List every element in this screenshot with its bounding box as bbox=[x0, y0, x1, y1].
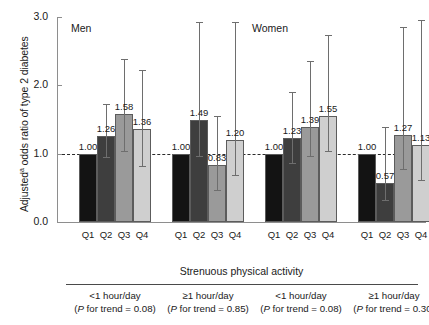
y-axis-label-superscript: a bbox=[18, 168, 25, 172]
group-label-duration: <1 hour/day bbox=[250, 289, 352, 302]
error-bar-cap bbox=[289, 163, 296, 164]
error-bar-cap bbox=[418, 180, 425, 181]
figure-root: Adjusteda odds ratio of type 2 diabetes … bbox=[0, 0, 429, 325]
error-bar-cap bbox=[325, 35, 332, 36]
error-bar-cap bbox=[325, 151, 332, 152]
x-tick-q4: Q4 bbox=[222, 229, 248, 240]
y-axis-tick-label: 1.0 bbox=[18, 147, 48, 159]
panel-title-women: Women bbox=[252, 22, 288, 34]
group-label-duration: <1 hour/day bbox=[64, 289, 166, 302]
x-tick-q4: Q4 bbox=[315, 229, 341, 240]
x-axis-title: Strenuous physical activity bbox=[57, 265, 426, 277]
bar-value-label: 1.20 bbox=[218, 127, 252, 138]
bar-value-label: 1.58 bbox=[107, 101, 141, 112]
y-axis-tick bbox=[57, 85, 62, 86]
group-label: <1 hour/day(P for trend = 0.08) bbox=[64, 289, 166, 315]
bar-value-label: 1.55 bbox=[311, 103, 345, 114]
x-tick-q4: Q4 bbox=[408, 229, 429, 240]
group-label: <1 hour/day(P for trend = 0.08) bbox=[250, 289, 352, 315]
bar-value-label: 1.36 bbox=[125, 116, 159, 127]
error-bar-cap bbox=[196, 22, 203, 23]
y-axis-line bbox=[57, 17, 58, 222]
x-tick-q4: Q4 bbox=[129, 229, 155, 240]
y-axis-top-tick bbox=[57, 17, 62, 18]
y-axis-tick bbox=[57, 222, 62, 223]
y-axis-tick-label: 0.0 bbox=[18, 215, 48, 227]
error-bar bbox=[328, 35, 329, 150]
error-bar-cap bbox=[400, 169, 407, 170]
error-bar-cap bbox=[418, 20, 425, 21]
y-axis-tick-label: 2.0 bbox=[18, 78, 48, 90]
group-label: ≥1 hour/day(P for trend = 0.85) bbox=[157, 289, 259, 315]
error-bar-cap bbox=[121, 151, 128, 152]
error-bar-cap bbox=[307, 156, 314, 157]
bar-q1 bbox=[79, 154, 97, 222]
error-bar bbox=[403, 27, 404, 170]
bar-value-label: 1.49 bbox=[182, 107, 216, 118]
error-bar-cap bbox=[214, 116, 221, 117]
error-bar-cap bbox=[103, 157, 110, 158]
bar-q1 bbox=[265, 154, 283, 222]
plot-area: Men Women 1.001.261.581.361.001.490.831.… bbox=[57, 17, 426, 222]
error-bar bbox=[385, 127, 386, 200]
group-label: ≥1 hour/day(P for trend = 0.30) bbox=[343, 289, 429, 315]
error-bar-cap bbox=[139, 166, 146, 167]
error-bar bbox=[421, 20, 422, 180]
bar-value-label: 1.13 bbox=[404, 132, 429, 143]
error-bar-cap bbox=[382, 200, 389, 201]
group-divider-rule bbox=[66, 284, 418, 285]
group-label-ptrend: (P for trend = 0.30) bbox=[343, 302, 429, 315]
group-label-ptrend: (P for trend = 0.08) bbox=[250, 302, 352, 315]
error-bar-cap bbox=[139, 70, 146, 71]
error-bar-cap bbox=[214, 190, 221, 191]
error-bar-cap bbox=[232, 22, 239, 23]
x-axis-line bbox=[57, 222, 426, 223]
y-axis-label-text: Adjusted bbox=[18, 172, 30, 212]
error-bar-cap bbox=[289, 92, 296, 93]
panel-title-men: Men bbox=[71, 22, 91, 34]
group-label-duration: ≥1 hour/day bbox=[343, 289, 429, 302]
error-bar bbox=[199, 22, 200, 156]
bar-q1 bbox=[172, 154, 190, 222]
y-axis-label: Adjusteda odds ratio of type 2 diabetes bbox=[18, 8, 31, 240]
error-bar bbox=[235, 22, 236, 175]
error-bar-cap bbox=[121, 59, 128, 60]
y-axis-tick bbox=[57, 154, 62, 155]
group-label-ptrend: (P for trend = 0.85) bbox=[157, 302, 259, 315]
error-bar-cap bbox=[232, 175, 239, 176]
error-bar-cap bbox=[400, 27, 407, 28]
group-label-ptrend: (P for trend = 0.08) bbox=[64, 302, 166, 315]
group-label-duration: ≥1 hour/day bbox=[157, 289, 259, 302]
bar-q1 bbox=[358, 154, 376, 222]
error-bar-cap bbox=[307, 61, 314, 62]
bar-value-label: 1.00 bbox=[350, 141, 384, 152]
y-axis-tick-label: 3.0 bbox=[18, 10, 48, 22]
